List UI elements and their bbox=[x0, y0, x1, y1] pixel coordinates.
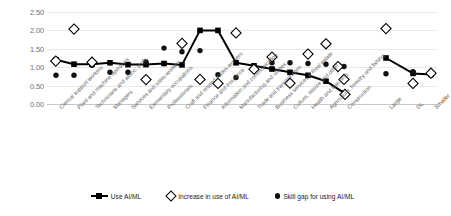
chart-legend: Use AI/ML Increase in use of AI/ML Skill… bbox=[0, 192, 445, 200]
legend-label: Increase in use of AI/ML bbox=[178, 193, 249, 200]
line-marker-icon bbox=[91, 195, 108, 197]
legend-label: Use AI/ML bbox=[111, 193, 141, 200]
legend-label: Skill gap for using AI/ML bbox=[283, 193, 354, 200]
y-tick-label: 2.50 bbox=[4, 8, 44, 17]
x-axis-labels: Clerical support workers Plant and machi… bbox=[47, 106, 437, 178]
y-tick-label: 2.00 bbox=[4, 26, 44, 35]
legend-item-increase-in-use[interactable]: Increase in use of AI/ML bbox=[167, 192, 249, 200]
y-tick-label: 1.00 bbox=[4, 63, 44, 72]
legend-item-use-ai-ml[interactable]: Use AI/ML bbox=[91, 193, 141, 200]
dot-marker-icon bbox=[275, 193, 280, 198]
y-tick-label: 1.50 bbox=[4, 44, 44, 53]
y-tick-label: 0.50 bbox=[4, 81, 44, 90]
diamond-marker-icon bbox=[166, 190, 177, 201]
line-use-ai-ml-firmsize bbox=[386, 58, 431, 75]
legend-item-skill-gap[interactable]: Skill gap for using AI/ML bbox=[275, 193, 354, 200]
y-tick-label: 0.00 bbox=[4, 100, 44, 109]
